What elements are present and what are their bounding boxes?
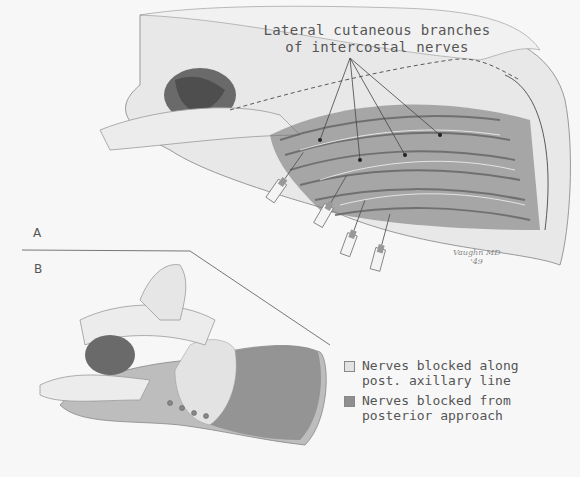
legend-swatch-light bbox=[344, 361, 355, 372]
nerve-branches-annotation: Lateral cutaneous branches of intercosta… bbox=[262, 22, 492, 56]
artist-signature: Vaughn MD '49 bbox=[453, 248, 501, 266]
legend-text: Nerves blocked along post. axillary line bbox=[362, 358, 519, 388]
legend-item-posterior: Nerves blocked from posterior approach bbox=[344, 393, 519, 423]
legend: Nerves blocked along post. axillary line… bbox=[344, 358, 519, 428]
legend-swatch-dark bbox=[344, 396, 355, 407]
legend-text: Nerves blocked from posterior approach bbox=[362, 393, 511, 423]
panel-label-a: A bbox=[33, 226, 41, 240]
legend-item-axillary: Nerves blocked along post. axillary line bbox=[344, 358, 519, 388]
anatomical-illustration: Lateral cutaneous branches of intercosta… bbox=[0, 0, 580, 477]
panel-label-b: B bbox=[34, 262, 42, 276]
